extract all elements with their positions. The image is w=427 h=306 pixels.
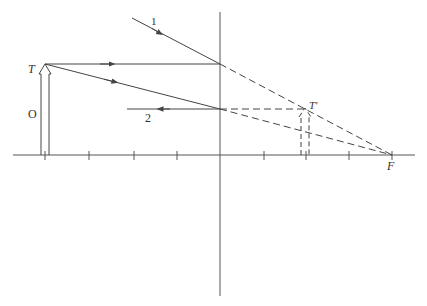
ray-1-arrow-icon	[152, 29, 160, 34]
image-arrow	[299, 108, 311, 155]
ray-t-to-lens	[45, 64, 220, 109]
ray-1	[132, 18, 220, 64]
ray-diagram-canvas: T O T' F 1 2	[0, 0, 427, 306]
label-ray-2: 2	[145, 111, 151, 125]
label-image-tip: T'	[309, 99, 318, 111]
label-object: O	[28, 107, 37, 121]
ray-diagram: T O T' F 1 2	[0, 0, 427, 306]
ray-t-to-lens-arrow-icon	[104, 79, 115, 82]
label-focal-point: F	[386, 159, 395, 173]
object-arrow	[39, 64, 51, 155]
label-object-tip: T	[28, 62, 36, 76]
extension-lower	[220, 109, 392, 155]
label-ray-1: 1	[151, 15, 157, 27]
